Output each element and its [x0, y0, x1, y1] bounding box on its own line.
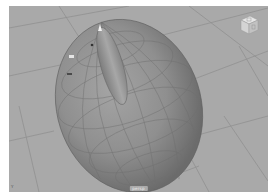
3d-viewport[interactable]: Y persp [9, 6, 268, 192]
view-cube-icon[interactable] [238, 14, 260, 36]
view-cube[interactable] [238, 14, 260, 36]
scene-canvas[interactable] [9, 6, 268, 192]
axis-indicator: Y [11, 184, 13, 189]
egg-body [33, 6, 224, 192]
camera-name-label: persp [129, 186, 147, 191]
